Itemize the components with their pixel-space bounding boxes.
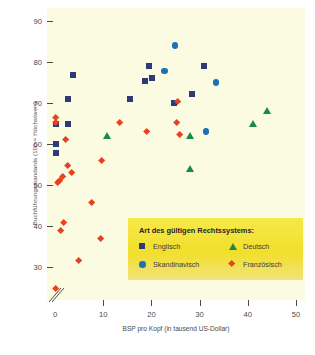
- x-tick-mark: [103, 300, 104, 306]
- y-tick-mark: [47, 62, 53, 63]
- y-tick-label: 50: [18, 181, 42, 190]
- x-tick-label: 40: [233, 310, 263, 319]
- legend-label: Englisch: [153, 242, 180, 251]
- legend-swatch-circle: [139, 261, 146, 268]
- y-tick-mark: [47, 144, 53, 145]
- y-tick-mark: [47, 21, 53, 22]
- y-tick-label: 40: [18, 222, 42, 231]
- y-tick-label: 30: [18, 263, 42, 272]
- y-tick-mark: [47, 103, 53, 104]
- legend-label: Deutsch: [243, 242, 269, 251]
- y-axis-title: Buchführungsstandards (100 = Höchstwert): [31, 59, 38, 269]
- y-tick-label: 80: [18, 58, 42, 67]
- legend-swatch-square: [139, 243, 145, 249]
- y-tick-mark: [47, 226, 53, 227]
- x-tick-label: 20: [136, 310, 166, 319]
- legend-label: Französisch: [243, 260, 282, 269]
- y-tick-label: 60: [18, 140, 42, 149]
- y-tick-label: 90: [18, 17, 42, 26]
- x-tick-label: 30: [185, 310, 215, 319]
- legend-title: Art des gültigen Rechtssystems:: [139, 226, 254, 235]
- x-tick-label: 50: [281, 310, 311, 319]
- scatter-chart-figure: Buchführungsstandards (100 = Höchstwert)…: [0, 0, 315, 355]
- y-tick-mark: [47, 185, 53, 186]
- x-tick-label: 0: [40, 310, 70, 319]
- legend-swatch-diamond: [228, 260, 236, 268]
- legend: Art des gültigen Rechtssystems: Englisch…: [128, 218, 303, 280]
- legend-swatch-triangle: [229, 243, 237, 250]
- x-tick-mark: [200, 300, 201, 306]
- x-tick-mark: [296, 300, 297, 306]
- legend-label: Skandinavisch: [153, 260, 199, 269]
- y-tick-label: 70: [18, 99, 42, 108]
- axis-break-icon: [47, 284, 67, 304]
- x-tick-mark: [248, 300, 249, 306]
- y-tick-mark: [47, 267, 53, 268]
- x-tick-label: 10: [88, 310, 118, 319]
- x-tick-mark: [151, 300, 152, 306]
- x-axis-title: BSP pro Kopf (in tausend US-Dollar): [47, 325, 305, 332]
